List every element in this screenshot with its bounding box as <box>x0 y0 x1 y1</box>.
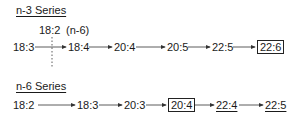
n6-node-20-4-boxed: 20:4 <box>168 98 195 112</box>
series-title-n3: n-3 Series <box>16 4 66 16</box>
n6-node-18-2: 18:2 <box>13 99 34 111</box>
n6-node-20-3: 20:3 <box>124 99 145 111</box>
arrows-layer <box>0 0 295 116</box>
n3-node-22-5: 22:5 <box>212 41 233 53</box>
n6-node-18-3: 18:3 <box>77 99 98 111</box>
n3-node-20-5: 20:5 <box>167 41 188 53</box>
branch-label: 18:2 <box>39 24 60 36</box>
n3-node-18-4: 18:4 <box>68 41 89 53</box>
n3-node-18-3: 18:3 <box>13 41 34 53</box>
n3-node-20-4: 20:4 <box>114 41 135 53</box>
branch-note: (n-6) <box>66 24 89 36</box>
n6-node-22-4-underlined: 22:4 <box>216 99 237 111</box>
n6-node-22-5-underlined: 22:5 <box>265 99 286 111</box>
n3-node-22-6-boxed: 22:6 <box>257 40 284 54</box>
series-title-n6: n-6 Series <box>16 80 66 92</box>
